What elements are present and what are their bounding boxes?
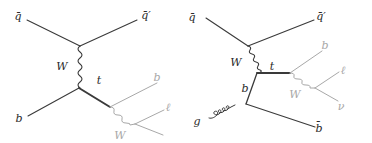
label-w-decay: W [114, 130, 125, 141]
label-top: t [270, 61, 274, 72]
label-b-decay: b [321, 40, 328, 51]
neutrino-line [315, 88, 338, 101]
label-b-in: b [15, 113, 22, 124]
qbar-out-line [248, 20, 314, 46]
qbar-in-line [27, 20, 80, 46]
w-decay-wavy-line [110, 107, 135, 125]
label-w-exchange: W [56, 61, 67, 72]
diagram-right [206, 18, 339, 127]
lepton-line [315, 72, 339, 88]
label-bbar-out: b̄ [315, 123, 322, 134]
label-qbar-in: q̄ [14, 11, 21, 22]
label-qbar-out: q̄′ [141, 10, 151, 21]
diagram-left [27, 20, 164, 135]
label-lepton: ℓ [166, 102, 171, 113]
label-qbar-out: q̄′ [316, 11, 326, 22]
gluon-curly-line [209, 105, 235, 118]
b-in-line [28, 88, 79, 116]
b-decay-line [110, 83, 157, 107]
label-top: t [97, 75, 101, 86]
qbar-in-line [206, 18, 248, 46]
label-gluon: g [193, 116, 200, 127]
label-w-exchange: W [230, 57, 241, 68]
label-lepton: ℓ [341, 65, 346, 76]
label-neutrino: ν [338, 101, 345, 112]
top-line [79, 88, 110, 107]
bbar-out-line [246, 104, 315, 127]
w-exchange-wavy-line [248, 46, 261, 73]
label-w-decay: W [289, 89, 300, 100]
qbar-out-line [80, 20, 137, 46]
w-exchange-wavy-line [78, 46, 82, 88]
label-qbar-in: q̄ [188, 12, 195, 23]
neutrino-line [135, 124, 163, 135]
label-b-decay: b [153, 72, 160, 83]
b-decay-line [290, 51, 322, 73]
lepton-line [135, 110, 164, 124]
label-b-internal: b [241, 83, 248, 94]
w-decay-wavy-line [290, 73, 315, 88]
